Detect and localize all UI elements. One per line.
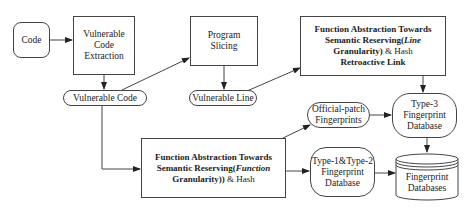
lineabs-line3: Granularity) & Hash — [333, 46, 413, 57]
edge-vulncode-to-funcabs — [102, 106, 140, 169]
type3-line2: Fingerprint — [403, 110, 446, 121]
official-patch-line2: Fingerprints — [315, 115, 361, 126]
vulnerable-code-node: Vulnerable Code — [63, 90, 147, 106]
edge-vulnline-to-lineabs — [247, 68, 300, 91]
extraction-line1: Vulnerable — [83, 29, 125, 40]
funcabs-line3: Granularity)) & Hash — [172, 174, 255, 185]
fpdbs-line1: Fingerprint — [396, 172, 458, 183]
fingerprint-databases-node: Fingerprint Databases — [396, 172, 458, 194]
official-patch-fingerprints-node: Official-patch Fingerprints — [307, 102, 370, 128]
slicing-line2: Slicing — [211, 41, 238, 52]
lineabs-line1: Function Abstraction Towards — [314, 24, 431, 35]
type3-line3: Database — [407, 121, 442, 132]
lineabs-line2: Semantic Reserving(Line — [325, 35, 421, 46]
type3-line1: Type-3 — [411, 99, 438, 110]
funcabs-line3-rest: & Hash — [225, 174, 255, 184]
lineabs-line2-prefix: Semantic Reserving( — [325, 35, 404, 45]
function-granularity-abstraction-node: Function Abstraction Towards Semantic Re… — [141, 138, 286, 198]
funcabs-line2-prefix: Semantic Reserving( — [157, 163, 236, 173]
lineabs-line2-italic: Line — [404, 35, 421, 45]
funcabs-line3-bold: Granularity)) — [172, 174, 225, 184]
extraction-line2: Code — [94, 40, 114, 51]
vulnerable-line-node: Vulnerable Line — [189, 90, 257, 106]
funcabs-line2: Semantic Reserving(Function — [157, 163, 271, 174]
lineabs-line3-bold: Granularity) — [333, 46, 383, 56]
official-patch-line1: Official-patch — [312, 104, 365, 115]
funcabs-line2-italic: Function — [236, 163, 271, 173]
extraction-line3: Extraction — [84, 51, 124, 62]
vulnerable-line-label: Vulnerable Line — [192, 93, 253, 104]
type12-line1: Type-1&Type-2 — [312, 156, 373, 167]
type12-line3: Database — [325, 178, 360, 189]
code-label: Code — [21, 35, 41, 46]
fpdbs-line2: Databases — [396, 183, 458, 194]
lineabs-line4: Retroactive Link — [340, 57, 405, 68]
type12-line2: Fingerprint — [321, 167, 364, 178]
program-slicing-node: Program Slicing — [190, 16, 258, 66]
funcabs-line1: Function Abstraction Towards — [155, 152, 272, 163]
vulnerable-code-extraction-node: Vulnerable Code Extraction — [73, 16, 135, 75]
type12-fingerprint-database-node: Type-1&Type-2 Fingerprint Database — [310, 147, 375, 197]
lineabs-line3-rest: & Hash — [383, 46, 413, 56]
type3-fingerprint-database-node: Type-3 Fingerprint Database — [392, 93, 457, 138]
code-node: Code — [13, 22, 50, 58]
edge-funcabs-to-officialpatch — [283, 125, 310, 138]
line-granularity-abstraction-node: Function Abstraction Towards Semantic Re… — [300, 16, 446, 76]
slicing-line1: Program — [208, 30, 241, 41]
vulnerable-code-label: Vulnerable Code — [73, 93, 137, 104]
